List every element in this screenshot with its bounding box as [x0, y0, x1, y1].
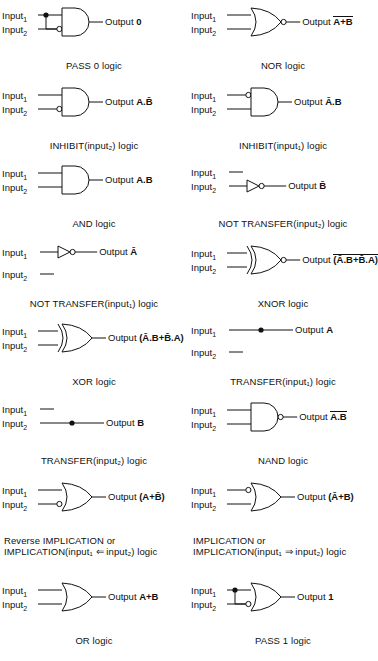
output-label-and: Output A.B	[105, 174, 153, 185]
output-label-impl: Output (Ā+B)	[297, 491, 354, 502]
gate-caption-nor: NOR logic	[189, 60, 377, 71]
output-label-revimpl: Output (A+B̄)	[108, 491, 165, 502]
gate-cell-transfer2: Input1Input2Output BTRANSFER(input₂) log…	[0, 397, 188, 466]
gate-cell-inhibit1: Input1Input2Output Ā.BINHIBIT(input₁) l…	[189, 82, 377, 151]
gate-svg-transfer1	[189, 318, 377, 376]
gate-svg-nor	[189, 2, 377, 60]
input1-label: Input1	[2, 168, 27, 181]
gate-cell-impl: Input1Input2Output (Ā+B)IMPLICATION orI…	[189, 477, 377, 557]
gate-diagram-nand: Input1Input2Output A.B	[189, 397, 377, 455]
gate-caption-nottransfer1: NOT TRANSFER(input₁) logic	[0, 298, 188, 309]
output-label-pass0: Output 0	[105, 16, 141, 27]
output-label-xnor: Output (Ā.B+B̄.A)	[302, 254, 378, 265]
gate-cell-nottransfer1: Input1Input2Output ĀNOT TRANSFER(input₁…	[0, 240, 188, 309]
gate-caption-inhibit2: INHIBIT(input₂) logic	[0, 140, 188, 151]
gate-svg-pass0	[0, 2, 188, 60]
output-label-nottransfer1: Output Ā	[99, 246, 137, 257]
gate-diagram-impl: Input1Input2Output (Ā+B)	[189, 477, 377, 535]
gate-caption-transfer2: TRANSFER(input₂) logic	[0, 455, 188, 466]
gate-diagram-inhibit2: Input1Input2Output A.B̄	[0, 82, 188, 140]
input2-label: Input2	[191, 499, 216, 512]
output-label-inhibit2: Output A.B̄	[105, 96, 153, 107]
input2-label: Input2	[2, 24, 27, 37]
gate-svg-pass1	[189, 577, 377, 635]
input2-label: Input2	[2, 269, 27, 282]
gate-caption-nand: NAND logic	[189, 455, 377, 466]
gate-caption-or: OR logic	[0, 635, 188, 646]
gate-diagram-xnor: Input1Input2Output (Ā.B+B̄.A)	[189, 240, 377, 298]
gate-diagram-nottransfer2: Input1Input2Output B̄	[189, 160, 377, 218]
output-label-xor: Output (Ā.B+B̄.A)	[108, 332, 184, 343]
gate-caption-transfer1: TRANSFER(input₁) logic	[189, 376, 377, 387]
gate-cell-nor: Input1Input2Output A+BNOR logic	[189, 2, 377, 71]
gate-caption-and: AND logic	[0, 218, 188, 229]
gate-cell-nottransfer2: Input1Input2Output B̄NOT TRANSFER(input₂…	[189, 160, 377, 229]
input1-label: Input1	[2, 90, 27, 103]
gate-svg-or	[0, 577, 188, 635]
output-label-or: Output A+B	[108, 591, 158, 602]
gate-cell-pass1: Input1Input2Output 1PASS 1 logic	[189, 577, 377, 646]
input1-label: Input1	[2, 247, 27, 260]
gate-svg-transfer2	[0, 397, 188, 455]
input2-label: Input2	[191, 347, 216, 360]
input1-label: Input1	[2, 585, 27, 598]
input2-label: Input2	[2, 599, 27, 612]
gate-diagram-revimpl: Input1Input2Output (A+B̄)	[0, 477, 188, 535]
gate-caption-pass1: PASS 1 logic	[189, 635, 377, 646]
gate-svg-xor	[0, 318, 188, 376]
input2-label: Input2	[191, 181, 216, 194]
input2-label: Input2	[191, 419, 216, 432]
gate-caption-xnor: XNOR logic	[189, 298, 377, 309]
gate-caption-impl: IMPLICATION orIMPLICATION(input₁ ⇒ input…	[189, 535, 377, 557]
input1-label: Input1	[191, 248, 216, 261]
output-label-nand: Output A.B	[299, 411, 347, 422]
gate-diagram-transfer2: Input1Input2Output B	[0, 397, 188, 455]
gate-svg-xnor	[189, 240, 377, 298]
input2-label: Input2	[2, 104, 27, 117]
gate-caption-nottransfer2: NOT TRANSFER(input₂) logic	[189, 218, 377, 229]
output-label-pass1: Output 1	[297, 591, 333, 602]
gate-caption-xor: XOR logic	[0, 376, 188, 387]
gate-svg-nottransfer1	[0, 240, 188, 298]
input1-label: Input1	[191, 167, 216, 180]
input2-label: Input2	[2, 499, 27, 512]
input1-label: Input1	[2, 404, 27, 417]
input1-label: Input1	[191, 90, 216, 103]
gate-caption-revimpl: Reverse IMPLICATION orIMPLICATION(input₁…	[0, 535, 188, 557]
input1-label: Input1	[2, 326, 27, 339]
gate-svg-nand	[189, 397, 377, 455]
input2-label: Input2	[191, 262, 216, 275]
gate-cell-transfer1: Input1Input2Output ATRANSFER(input₁) log…	[189, 318, 377, 387]
input2-label: Input2	[191, 24, 216, 37]
gate-svg-inhibit2	[0, 82, 188, 140]
gate-diagram-xor: Input1Input2Output (Ā.B+B̄.A)	[0, 318, 188, 376]
gate-svg-impl	[189, 477, 377, 535]
output-label-nor: Output A+B	[302, 16, 352, 27]
gate-svg-revimpl	[0, 477, 188, 535]
gate-diagram-and: Input1Input2Output A.B	[0, 160, 188, 218]
input2-label: Input2	[2, 418, 27, 431]
input1-label: Input1	[191, 485, 216, 498]
output-label-transfer2: Output B	[106, 417, 144, 428]
gate-diagram-inhibit1: Input1Input2Output Ā.B	[189, 82, 377, 140]
gate-cell-xor: Input1Input2Output (Ā.B+B̄.A)XOR logic	[0, 318, 188, 387]
input2-label: Input2	[191, 599, 216, 612]
input2-label: Input2	[2, 182, 27, 195]
gate-cell-or: Input1Input2Output A+BOR logic	[0, 577, 188, 646]
gate-cell-and: Input1Input2Output A.BAND logic	[0, 160, 188, 229]
input1-label: Input1	[191, 10, 216, 23]
input2-label: Input2	[2, 340, 27, 353]
input1-label: Input1	[2, 10, 27, 23]
gate-diagram-nor: Input1Input2Output A+B	[189, 2, 377, 60]
input1-label: Input1	[191, 405, 216, 418]
input1-label: Input1	[191, 325, 216, 338]
gate-cell-inhibit2: Input1Input2Output A.B̄INHIBIT(input₂) l…	[0, 82, 188, 151]
gate-svg-inhibit1	[189, 82, 377, 140]
gate-caption-inhibit1: INHIBIT(input₁) logic	[189, 140, 377, 151]
gate-cell-nand: Input1Input2Output A.BNAND logic	[189, 397, 377, 466]
output-label-nottransfer2: Output B̄	[288, 180, 326, 191]
gate-diagram-pass1: Input1Input2Output 1	[189, 577, 377, 635]
gate-svg-nottransfer2	[189, 160, 377, 218]
input2-label: Input2	[191, 104, 216, 117]
gate-diagram-or: Input1Input2Output A+B	[0, 577, 188, 635]
